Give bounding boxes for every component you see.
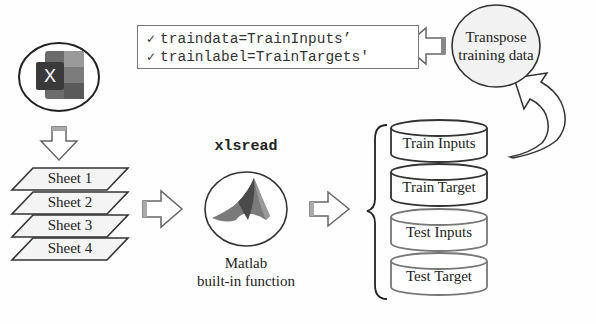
caption-line-2: built-in function xyxy=(186,272,306,290)
checkmark-icon: ✓ xyxy=(146,50,156,64)
checkmark-icon: ✓ xyxy=(146,32,156,46)
function-name: xlsread xyxy=(206,138,286,155)
code-box: ✓traindata=TrainInputs’ ✓trainlabel=Trai… xyxy=(137,25,419,69)
transpose-label: Transpose training data xyxy=(452,28,540,64)
dataset-label: Train Inputs xyxy=(391,135,487,152)
curved-arrow-icon xyxy=(510,73,565,158)
curly-brace xyxy=(367,125,387,299)
code-text: traindata=TrainInputs’ xyxy=(160,31,351,47)
down-arrow-icon xyxy=(41,127,77,160)
right-arrow-icon xyxy=(143,191,182,227)
code-line: ✓trainlabel=TrainTargets' xyxy=(146,48,418,66)
transpose-line-2: training data xyxy=(452,46,540,64)
excel-letter: X xyxy=(36,64,64,88)
sheet-label: Sheet 1 xyxy=(20,170,120,187)
dataset-label: Test Target xyxy=(391,268,487,285)
right-arrow-icon xyxy=(310,192,349,226)
sheet-label: Sheet 2 xyxy=(20,194,120,211)
sheet-label: Sheet 4 xyxy=(20,240,120,257)
dataset-label: Test Inputs xyxy=(391,224,487,241)
sheet-label: Sheet 3 xyxy=(20,217,120,234)
code-line: ✓traindata=TrainInputs’ xyxy=(146,30,418,48)
transpose-line-1: Transpose xyxy=(452,28,540,46)
caption-line-1: Matlab xyxy=(186,254,306,272)
code-text: trainlabel=TrainTargets' xyxy=(160,49,369,65)
dataset-label: Train Target xyxy=(391,179,487,196)
matlab-caption: Matlab built-in function xyxy=(186,254,306,290)
